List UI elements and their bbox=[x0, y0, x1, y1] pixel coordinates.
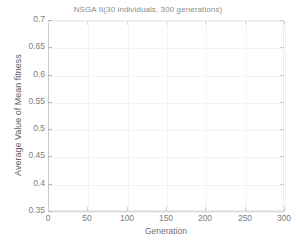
y-tick-mark-right bbox=[280, 211, 284, 212]
x-tick-label: 0 bbox=[28, 213, 68, 223]
y-axis-label: Average Value of Mean fitness bbox=[13, 15, 23, 215]
x-tick-mark bbox=[127, 207, 128, 211]
y-tick-mark bbox=[48, 156, 52, 157]
y-tick-mark-right bbox=[280, 75, 284, 76]
gridline-vertical bbox=[88, 21, 89, 210]
x-tick-label: 50 bbox=[67, 213, 107, 223]
x-tick-label: 300 bbox=[264, 213, 296, 223]
y-tick-label: 0.7 bbox=[33, 15, 45, 24]
y-tick-mark-right bbox=[280, 156, 284, 157]
y-tick-mark bbox=[48, 129, 52, 130]
gridline-horizontal bbox=[49, 130, 283, 131]
y-tick-mark bbox=[48, 102, 52, 103]
gridline-horizontal bbox=[49, 185, 283, 186]
gridline-vertical bbox=[246, 21, 247, 210]
y-tick-label: 0.5 bbox=[33, 124, 45, 133]
plot-area bbox=[48, 20, 284, 211]
y-tick-mark-right bbox=[280, 129, 284, 130]
gridline-horizontal bbox=[49, 157, 283, 158]
x-tick-mark bbox=[245, 207, 246, 211]
x-tick-label: 250 bbox=[225, 213, 265, 223]
x-tick-mark-top bbox=[48, 21, 49, 25]
y-tick-label: 0.6 bbox=[33, 70, 45, 79]
y-tick-label: 0.45 bbox=[28, 151, 45, 160]
y-tick-mark bbox=[48, 184, 52, 185]
x-tick-mark bbox=[48, 207, 49, 211]
x-tick-mark-top bbox=[205, 21, 206, 25]
x-tick-mark-top bbox=[245, 21, 246, 25]
gridline-horizontal bbox=[49, 76, 283, 77]
y-tick-mark bbox=[48, 47, 52, 48]
gridline-vertical bbox=[285, 21, 286, 210]
x-tick-mark bbox=[205, 207, 206, 211]
y-tick-label: 0.4 bbox=[33, 179, 45, 188]
x-tick-mark bbox=[87, 207, 88, 211]
y-tick-mark-right bbox=[280, 184, 284, 185]
chart-title: NSGA II(30 individuals, 300 generations) bbox=[0, 5, 296, 14]
x-tick-label: 100 bbox=[107, 213, 147, 223]
gridline-vertical bbox=[167, 21, 168, 210]
y-tick-mark-right bbox=[280, 47, 284, 48]
x-tick-label: 150 bbox=[146, 213, 186, 223]
gridline-horizontal bbox=[49, 48, 283, 49]
gridline-horizontal bbox=[49, 103, 283, 104]
gridline-vertical bbox=[206, 21, 207, 210]
y-tick-mark bbox=[48, 75, 52, 76]
y-tick-label: 0.55 bbox=[28, 97, 45, 106]
gridline-vertical bbox=[128, 21, 129, 210]
y-tick-label: 0.65 bbox=[28, 42, 45, 51]
x-tick-mark-top bbox=[127, 21, 128, 25]
x-tick-mark bbox=[284, 207, 285, 211]
y-tick-mark-right bbox=[280, 102, 284, 103]
x-axis-line bbox=[48, 211, 285, 212]
x-tick-mark-top bbox=[87, 21, 88, 25]
chart-screenshot: NSGA II(30 individuals, 300 generations)… bbox=[0, 0, 296, 244]
x-axis-label: Generation bbox=[48, 226, 284, 236]
y-tick-mark bbox=[48, 211, 52, 212]
x-tick-label: 200 bbox=[185, 213, 225, 223]
x-tick-mark-top bbox=[284, 21, 285, 25]
x-tick-mark bbox=[166, 207, 167, 211]
x-tick-mark-top bbox=[166, 21, 167, 25]
